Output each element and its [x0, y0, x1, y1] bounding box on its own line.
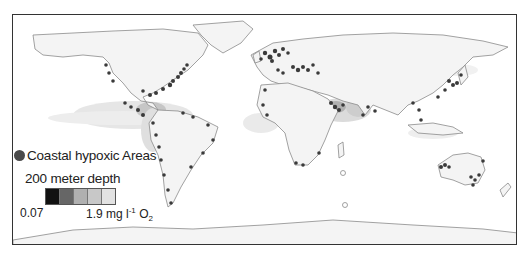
swatch-3	[74, 189, 88, 204]
scale-max-value: 1.9 mg l	[86, 207, 129, 221]
swatch-5	[102, 189, 115, 204]
scale-max-exp: -1	[129, 206, 136, 215]
swatch-1	[46, 189, 60, 204]
north-america	[33, 29, 208, 110]
australia	[438, 153, 485, 185]
swatch-2	[60, 189, 74, 204]
islands-outline	[341, 171, 348, 208]
hypoxic-dot-icon	[14, 150, 25, 161]
legend-depth-title: 200 meter depth	[25, 171, 120, 186]
legend-scale-max: 1.9 mg l-1 O2	[86, 206, 153, 223]
scale-max-unit: O	[136, 207, 149, 221]
legend-scale-min: 0.07	[20, 206, 43, 220]
new-zealand	[500, 183, 511, 197]
swatch-4	[88, 189, 102, 204]
antarctica	[13, 220, 517, 245]
legend-color-scale	[45, 188, 116, 205]
scale-max-sub: 2	[148, 214, 152, 223]
legend-hypoxic-areas: Coastal hypoxic Areas	[14, 148, 156, 163]
legend-hypoxic-label: Coastal hypoxic Areas	[27, 148, 156, 163]
madagascar	[338, 142, 344, 158]
